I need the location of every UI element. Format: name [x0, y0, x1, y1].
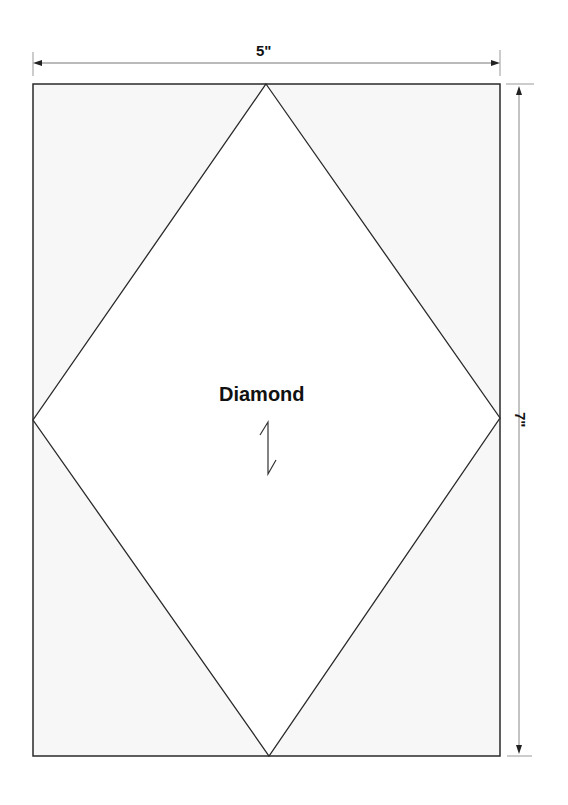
width-label: 5"	[256, 42, 271, 59]
height-label: 7"	[512, 412, 529, 427]
shape-label: Diamond	[219, 383, 305, 406]
